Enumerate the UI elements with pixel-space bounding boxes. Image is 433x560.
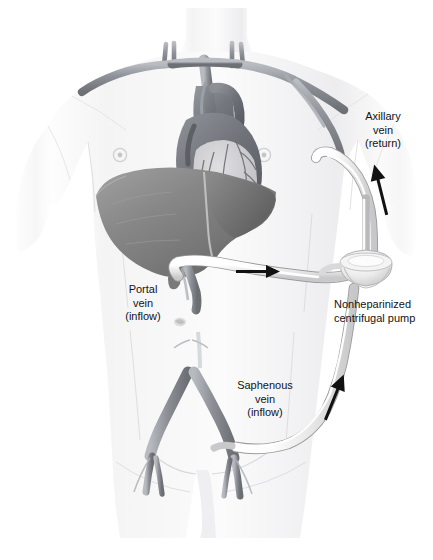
label-saphenous-vein: Saphenous vein (inflow) — [224, 379, 306, 420]
label-centrifugal-pump: Nonheparinized centrifugal pump — [334, 298, 433, 325]
label-axillary-vein: Axillary vein (return) — [340, 110, 426, 151]
anatomy-illustration — [0, 0, 433, 560]
illustration-canvas: Axillary vein (return) Portal vein (infl… — [0, 0, 433, 560]
label-portal-vein: Portal vein (inflow) — [108, 283, 178, 324]
